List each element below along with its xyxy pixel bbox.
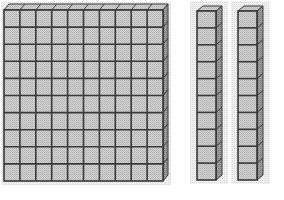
hundred-flat-block: [1, 2, 171, 185]
ten-rod-block-1: [190, 1, 228, 184]
base-ten-blocks-diagram: [0, 0, 284, 200]
ten-rod-block-2: [231, 1, 270, 184]
blocks-canvas: [0, 0, 284, 200]
